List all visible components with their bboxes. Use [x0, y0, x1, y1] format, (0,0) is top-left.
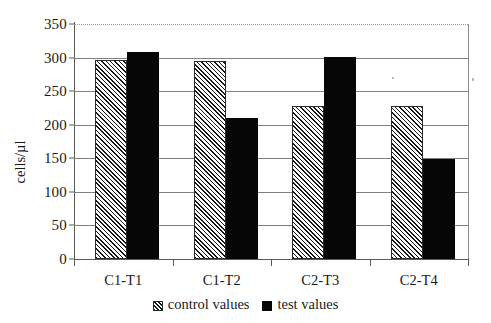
legend-label-test: test values: [277, 296, 338, 313]
bar-c2-t4-control: [391, 106, 423, 259]
bar-c1-t2-test: [226, 118, 258, 259]
x-tick-mark: [173, 259, 174, 266]
chart-legend: control values test values: [0, 296, 491, 313]
scan-speck: [472, 78, 474, 81]
x-tick-mark: [74, 259, 75, 266]
x-tick-label-c1-t2: C1-T2: [203, 272, 241, 289]
bar-c1-t1-control: [95, 60, 127, 259]
legend-item-control: control values: [153, 296, 250, 313]
scan-speck: [392, 77, 394, 79]
bar-chart: cells/µl 350300250200150100500 C1-T1C1-T…: [0, 0, 491, 323]
legend-label-control: control values: [168, 296, 250, 313]
legend-item-test: test values: [262, 296, 338, 313]
bar-c2-t3-control: [292, 106, 324, 259]
x-tick-label-c1-t1: C1-T1: [104, 272, 142, 289]
bar-c2-t3-test: [324, 57, 356, 259]
x-tick-mark: [271, 259, 272, 266]
bar-c1-t2-control: [194, 61, 226, 259]
x-tick-mark: [370, 259, 371, 266]
y-axis-title: cells/µl: [12, 140, 29, 183]
hatched-square-icon: [153, 301, 163, 311]
x-tick-mark: [468, 259, 469, 266]
plot-area: 350300250200150100500: [74, 24, 468, 259]
bar-c2-t4-test: [423, 159, 455, 259]
x-tick-label-c2-t4: C2-T4: [400, 272, 438, 289]
bars-layer: [74, 24, 468, 259]
filled-square-icon: [262, 301, 272, 311]
x-tick-label-c2-t3: C2-T3: [301, 272, 339, 289]
bar-c1-t1-test: [127, 52, 159, 259]
plot-right-border: [468, 24, 469, 259]
